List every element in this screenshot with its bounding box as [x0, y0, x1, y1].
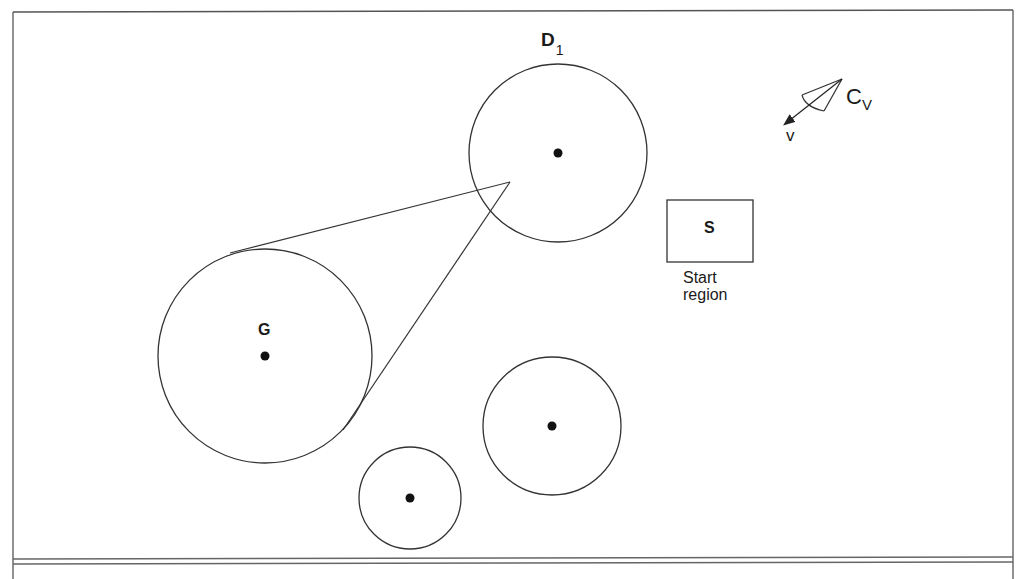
start-caption-line2: region [683, 286, 727, 303]
velocity-label: v [786, 127, 795, 144]
d1-label-subscript: 1 [556, 42, 564, 58]
d1-label: D1 [541, 30, 564, 49]
start-box-label: S [704, 220, 715, 236]
start-region-caption: Start region [683, 269, 727, 303]
tangent-cone [230, 182, 510, 430]
medium-center-dot [548, 422, 557, 431]
d1-label-main: D [541, 29, 555, 50]
cv-label: CV [846, 86, 872, 108]
diagram-canvas: D1 G S Start region CV v [0, 0, 1023, 579]
cv-label-main: C [846, 84, 862, 109]
obstacle-circle-medium [483, 357, 621, 495]
small-center-dot [406, 494, 415, 503]
velocity-arrow-icon [785, 79, 842, 124]
start-caption-line1: Start [683, 269, 727, 286]
goal-label: G [258, 322, 270, 338]
goal-center-dot [261, 352, 270, 361]
obstacle-circle-small [359, 447, 461, 549]
goal-circle-G [158, 249, 372, 463]
d1-center-dot [554, 149, 563, 158]
obstacle-circle-D1 [469, 64, 647, 242]
cv-label-subscript: V [862, 96, 872, 113]
